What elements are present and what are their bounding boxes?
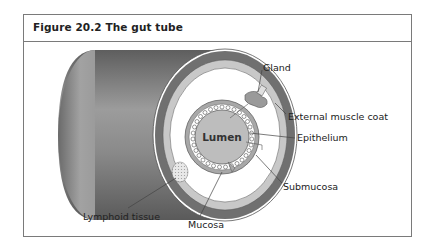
label-gland: Gland [263,62,291,73]
cross-section: Lumen [153,49,297,221]
label-mucosa: Mucosa [188,219,224,230]
lumen-label: Lumen [202,131,242,143]
label-external-muscle-coat: External muscle coat [288,111,388,122]
label-epithelium: Epithelium [297,132,348,143]
gut-tube-diagram: Lumen Gland External muscle coat Epithel… [0,0,432,250]
label-lymphoid-tissue: Lymphoid tissue [83,211,160,222]
label-submucosa: Submucosa [283,181,338,192]
